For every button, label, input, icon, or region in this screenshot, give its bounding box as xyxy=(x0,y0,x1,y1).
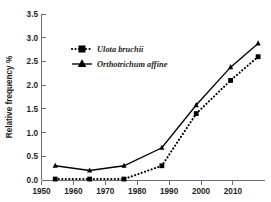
data-point-triangle xyxy=(256,40,261,45)
y-tick-label-1-0: 1.0 xyxy=(27,129,39,138)
y-tick-label-2-0: 2.0 xyxy=(27,81,39,90)
legend-marker-square xyxy=(79,46,86,53)
x-tick-label-1970: 1970 xyxy=(96,187,115,196)
legend-marker-triangle xyxy=(78,59,87,67)
y-tick-label-2-5: 2.5 xyxy=(27,57,39,66)
data-point-square xyxy=(87,177,92,182)
y-tick-label-3-0: 3.0 xyxy=(27,34,39,43)
legend-entry-ulota-bruchii: Ulota bruchii xyxy=(72,45,144,54)
y-axis-title: Relative frequency % xyxy=(5,55,14,138)
y-axis: 3.5 3.0 2.5 2.0 1.5 1.0 0.5 0.0 Relative… xyxy=(5,10,46,185)
data-point-square xyxy=(228,78,233,83)
data-point-square xyxy=(53,177,58,182)
x-tick-label-2010: 2010 xyxy=(224,187,243,196)
data-point-square xyxy=(122,177,127,182)
data-point-square xyxy=(159,163,164,168)
legend-label-ulota-bruchii: Ulota bruchii xyxy=(97,45,144,54)
x-tick-label-1960: 1960 xyxy=(64,187,83,196)
y-tick-label-3-5: 3.5 xyxy=(27,10,39,19)
data-point-triangle xyxy=(53,163,58,168)
y-tick-label-0-0: 0.0 xyxy=(27,176,39,185)
x-tick-label-1980: 1980 xyxy=(128,187,147,196)
x-tick-label-1990: 1990 xyxy=(160,187,179,196)
y-tick-label-1-5: 1.5 xyxy=(27,105,39,114)
chart-legend: Ulota bruchii Orthotrichum affine xyxy=(72,45,168,69)
legend-entry-orthotrichum-affine: Orthotrichum affine xyxy=(72,59,168,69)
chart-container: 3.5 3.0 2.5 2.0 1.5 1.0 0.5 0.0 Relative… xyxy=(0,0,271,202)
y-tick-marks xyxy=(42,14,46,180)
x-tick-label-2000: 2000 xyxy=(192,187,211,196)
data-point-square xyxy=(256,54,261,59)
x-tick-marks xyxy=(42,181,233,185)
series-ulota-bruchii xyxy=(53,54,261,181)
legend-label-orthotrichum-affine: Orthotrichum affine xyxy=(97,60,168,69)
data-point-square xyxy=(194,111,199,116)
y-tick-label-0-5: 0.5 xyxy=(27,152,39,161)
x-axis: 1950 1960 1970 1980 1990 2000 2010 xyxy=(32,181,265,197)
x-tick-label-1950: 1950 xyxy=(32,187,51,196)
series-line xyxy=(55,57,258,179)
line-chart: 3.5 3.0 2.5 2.0 1.5 1.0 0.5 0.0 Relative… xyxy=(0,0,271,202)
